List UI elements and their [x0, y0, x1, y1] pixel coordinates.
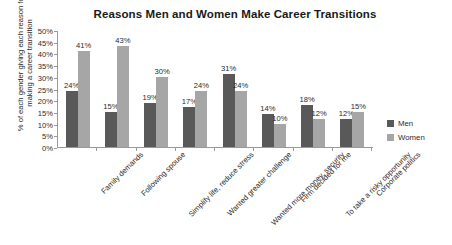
bar-value-label: 14% [260, 104, 275, 113]
x-axis-category-label: Firm decided for me [299, 150, 353, 204]
bar-women[interactable]: 12% [313, 119, 325, 147]
bar-group: 15%43% [97, 31, 136, 147]
bar-value-label: 31% [221, 64, 236, 73]
y-axis-tick-mark [54, 90, 57, 91]
bar-value-label: 18% [300, 95, 315, 104]
x-axis-category-label: Simplify life, reduce stress [187, 150, 256, 219]
y-axis-tick-label: 25% [26, 85, 53, 94]
x-axis-category-label: Family demands [99, 150, 145, 196]
bar-value-label: 15% [351, 102, 366, 111]
bar-chart: Reasons Men and Women Make Career Transi… [0, 0, 452, 245]
bar-value-label: 41% [76, 41, 91, 50]
bar-women[interactable]: 24% [195, 91, 207, 147]
x-axis-category-labels: Family demandsFollowing spouseSimplify l… [57, 150, 387, 242]
y-axis-tick-mark [54, 101, 57, 102]
bar-group: 17%24% [176, 31, 215, 147]
y-axis-tick-label: 20% [26, 97, 53, 106]
plot-area: 24%41%15%43%19%30%17%24%31%24%14%10%18%1… [57, 31, 373, 148]
y-axis-tick-mark [54, 148, 57, 149]
bar-men[interactable]: 15% [105, 112, 117, 147]
legend-label-women: Women [398, 133, 425, 142]
y-axis-tick-label: 0% [26, 144, 53, 153]
bar-men[interactable]: 24% [66, 91, 78, 147]
bar-men[interactable]: 17% [183, 107, 195, 147]
y-axis-tick-label: 30% [26, 73, 53, 82]
bar-value-label: 30% [155, 67, 170, 76]
bar-group: 18%12% [294, 31, 333, 147]
bar-women[interactable]: 15% [352, 112, 364, 147]
bars-layer: 24%41%15%43%19%30%17%24%31%24%14%10%18%1… [58, 31, 373, 147]
bar-men[interactable]: 12% [340, 119, 352, 147]
y-axis-tick-mark [54, 31, 57, 32]
y-axis-tick-label: 45% [26, 38, 53, 47]
bar-value-label: 24% [233, 81, 248, 90]
legend-item-women: Women [387, 133, 425, 142]
bar-group: 12%15% [333, 31, 372, 147]
bar-group: 24%41% [58, 31, 97, 147]
bar-women[interactable]: 41% [78, 51, 90, 147]
y-axis-tick-mark [54, 136, 57, 137]
bar-value-label: 10% [272, 114, 287, 123]
bar-value-label: 12% [312, 109, 327, 118]
y-axis-tick-mark [54, 78, 57, 79]
bar-men[interactable]: 19% [144, 103, 156, 147]
chart-title: Reasons Men and Women Make Career Transi… [40, 8, 430, 20]
y-axis-tick-label: 35% [26, 62, 53, 71]
y-axis-tick-labels: 50%45%40%35%30%25%20%15%10%5%0% [26, 31, 53, 148]
legend-label-men: Men [398, 119, 413, 128]
y-axis-tick-label: 15% [26, 108, 53, 117]
bar-group: 19%30% [137, 31, 176, 147]
chart-legend: Men Women [387, 119, 425, 147]
bar-value-label: 43% [115, 36, 130, 45]
bar-women[interactable]: 24% [235, 91, 247, 147]
x-axis-category-label: To take a risky opportunity [344, 150, 413, 219]
legend-swatch-men-icon [387, 120, 394, 127]
bar-group: 14%10% [254, 31, 293, 147]
y-axis-title-line-1: % of each gender giving each reason for [16, 0, 25, 131]
y-axis-tick-mark [54, 125, 57, 126]
legend-item-men: Men [387, 119, 425, 128]
y-axis-tick-mark [54, 43, 57, 44]
bar-value-label: 24% [194, 81, 209, 90]
bar-women[interactable]: 10% [274, 124, 286, 147]
x-axis-category-label: Following spouse [139, 150, 187, 198]
y-axis-tick-label: 10% [26, 120, 53, 129]
y-axis-tick-label: 50% [26, 27, 53, 36]
x-axis-line [57, 147, 373, 148]
bar-group: 31%24% [215, 31, 254, 147]
bar-women[interactable]: 30% [156, 77, 168, 147]
bar-women[interactable]: 43% [117, 46, 129, 147]
y-axis-tick-mark [54, 113, 57, 114]
y-axis-tick-mark [54, 54, 57, 55]
legend-swatch-women-icon [387, 134, 394, 141]
y-axis-tick-label: 40% [26, 50, 53, 59]
y-axis-tick-mark [54, 66, 57, 67]
y-axis-tick-label: 5% [26, 132, 53, 141]
